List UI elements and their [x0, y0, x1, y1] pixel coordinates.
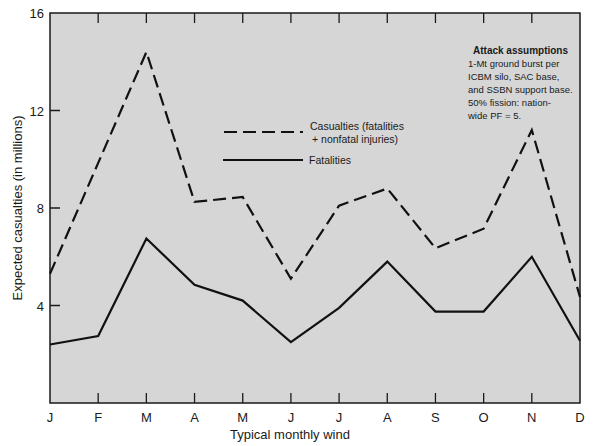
y-tick-label: 8	[37, 201, 44, 216]
note-line: 50% fission: nation-	[468, 96, 588, 109]
y-axis-title: Expected casualties (in millions)	[10, 116, 25, 301]
x-tick-label: M	[141, 410, 152, 425]
legend-casualties-label-2: + nonfatal injuries)	[312, 133, 398, 145]
legend-casualties-label: Casualties (fatalities	[310, 120, 404, 132]
note-line: 1-Mt ground burst per	[468, 57, 588, 70]
note-line: wide PF = 5.	[468, 109, 588, 122]
x-tick-label: N	[527, 410, 536, 425]
x-tick-label: S	[431, 410, 440, 425]
legend-fatalities-label: Fatalities	[309, 154, 351, 166]
x-tick-label: J	[288, 410, 295, 425]
x-tick-label: D	[575, 410, 584, 425]
y-tick-label: 16	[30, 6, 44, 21]
x-tick-label: A	[383, 410, 392, 425]
x-tick-label: O	[479, 410, 489, 425]
x-tick-label: J	[47, 410, 54, 425]
x-tick-label: J	[336, 410, 343, 425]
y-tick-label: 12	[30, 104, 44, 119]
x-axis-title: Typical monthly wind	[230, 427, 350, 442]
x-tick-label: F	[94, 410, 102, 425]
attack-assumptions-note: Attack assumptions 1-Mt ground burst per…	[468, 44, 588, 122]
y-tick-label: 4	[37, 299, 44, 314]
x-tick-label: A	[190, 410, 199, 425]
note-line: and SSBN support base.	[468, 83, 588, 96]
x-tick-label: M	[237, 410, 248, 425]
note-line: ICBM silo, SAC base,	[468, 70, 588, 83]
note-title: Attack assumptions	[468, 44, 588, 57]
